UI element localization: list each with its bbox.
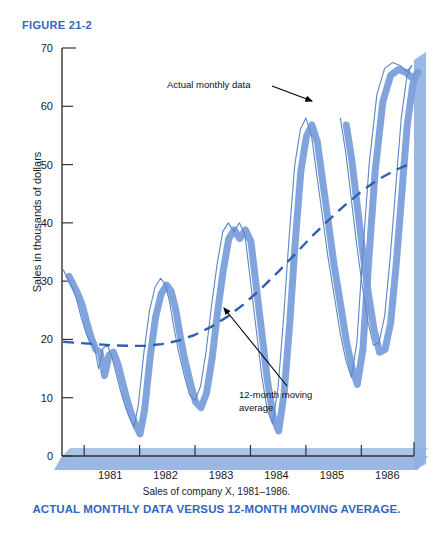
annotation-moving-average-label-line1: 12-month moving (239, 389, 312, 400)
chart-title: ACTUAL MONTHLY DATA VERSUS 12-MONTH MOVI… (0, 503, 433, 515)
data-series-layer (63, 63, 418, 434)
y-axis-ticks: 010203040506070 (41, 42, 73, 462)
x-tick-label-1982: 1982 (153, 469, 177, 480)
y-tick-label: 10 (41, 392, 53, 404)
annotation-actual-arrow (272, 86, 312, 101)
y-tick-label: 70 (41, 42, 53, 54)
y-tick-label: 60 (41, 100, 53, 112)
x-tick-label-1983: 1983 (209, 469, 233, 480)
y-tick-label: 0 (47, 450, 53, 462)
chart-svg: 010203040506070 198119821983198419851986… (0, 0, 433, 480)
annotation-moving-average-label-line2: average (239, 402, 273, 413)
annotation-actual-label: Actual monthly data (167, 79, 251, 90)
x-tick-label-1986: 1986 (375, 469, 399, 480)
x-tick-label-1981: 1981 (98, 469, 122, 480)
annotation-actual-monthly-data: Actual monthly data (167, 79, 312, 101)
x-tick-label-1984: 1984 (264, 469, 288, 480)
y-axis-title: Sales in thousands of dollars (31, 122, 43, 322)
x-tick-label-1985: 1985 (320, 469, 344, 480)
chart-plot-area: 010203040506070 198119821983198419851986… (0, 0, 433, 480)
chart-source-note: Sales of company X, 1981–1986. (0, 486, 433, 497)
y-tick-label: 20 (41, 333, 53, 345)
